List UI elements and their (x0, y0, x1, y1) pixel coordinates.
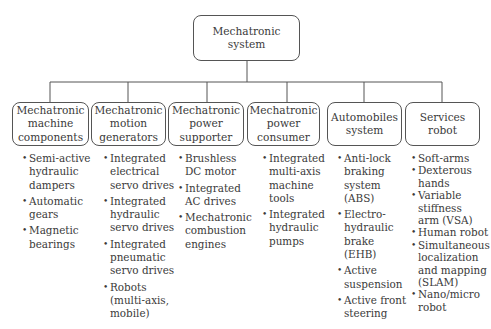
category-title-line: supporter (180, 131, 233, 145)
category-title-line: Mechatronic (249, 104, 317, 118)
category-title-line: Mechatronic (16, 104, 84, 118)
list-item: Integrated hydraulic pumps (262, 208, 327, 248)
power-supporter-list: Brushless DC motor Integrated AC drives … (178, 152, 250, 254)
list-item: Nano/micro robot (411, 288, 491, 313)
category-node-motion-generators: Mechatronic motion generators (91, 102, 166, 146)
list-item: Electro- hydraulic brake (EHB) (337, 208, 409, 261)
category-title-line: consumer (257, 131, 310, 145)
list-item: Robots (multi-axis, mobile) (103, 281, 175, 321)
list-item: Human robot (411, 226, 491, 238)
services-robot-list: Soft-arms Dexterous hands Variable stiff… (411, 152, 491, 313)
category-title-line: machine (28, 117, 74, 131)
list-item: Mechatronic combustion engines (178, 211, 250, 251)
automobiles-system-list: Anti-lock braking system (ABS) Electro- … (337, 152, 409, 324)
category-title-line: motion (110, 117, 147, 131)
list-item: Integrated pneumatic servo drives (103, 238, 175, 278)
mechatronic-system-diagram: Mechatronic system Mechatronic machine c… (0, 0, 491, 329)
category-title-line: Mechatronic (172, 104, 240, 118)
power-consumer-list: Integrated multi-axis machine tools Inte… (262, 152, 327, 251)
category-title-line: power (267, 117, 301, 131)
category-title-line: power (189, 117, 223, 131)
category-title-line: robot (428, 124, 457, 138)
root-label-line1: Mechatronic (212, 25, 280, 39)
category-node-power-supporter: Mechatronic power supporter (168, 102, 244, 146)
category-title-line: generators (99, 131, 158, 145)
motion-generators-list: Integrated electrical servo drives Integ… (103, 152, 175, 324)
category-title-line: components (18, 131, 83, 145)
list-item: Integrated multi-axis machine tools (262, 152, 327, 205)
list-item: Magnetic bearings (22, 224, 92, 251)
list-item: Semi-active hydraulic dampers (22, 152, 92, 192)
list-item: Active front steering (337, 294, 409, 321)
list-item: Variable stiffness arm (VSA) (411, 189, 491, 226)
list-item: Active suspension (337, 264, 409, 291)
category-title-line: Mechatronic (94, 104, 162, 118)
list-item: Anti-lock braking system (ABS) (337, 152, 409, 205)
category-node-automobiles-system: Automobiles system (327, 102, 402, 146)
root-label-line2: system (228, 38, 265, 52)
category-title-line: Services (420, 111, 466, 125)
list-item: Simultaneous localization and mapping (S… (411, 239, 491, 289)
category-node-services-robot: Services robot (405, 102, 480, 146)
machine-components-list: Semi-active hydraulic dampers Automatic … (22, 152, 92, 254)
list-item: Dexterous hands (411, 164, 491, 189)
list-item: Soft-arms (411, 152, 491, 164)
category-title-line: Automobiles (331, 111, 398, 125)
category-node-power-consumer: Mechatronic power consumer (247, 102, 320, 146)
root-node-mechatronic-system: Mechatronic system (193, 15, 300, 61)
list-item: Brushless DC motor (178, 152, 250, 179)
category-node-machine-components: Mechatronic machine components (12, 102, 89, 146)
list-item: Integrated electrical servo drives (103, 152, 175, 192)
list-item: Integrated hydraulic servo drives (103, 195, 175, 235)
list-item: Integrated AC drives (178, 182, 250, 209)
list-item: Automatic gears (22, 195, 92, 222)
category-title-line: system (346, 124, 383, 138)
